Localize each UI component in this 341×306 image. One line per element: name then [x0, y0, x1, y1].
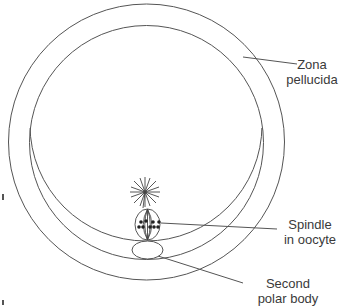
oocyte-diagram [0, 0, 341, 306]
zona-pellucida-inner [30, 26, 264, 260]
label-spindle-in-oocyte: Spindle in oocyte [280, 217, 340, 247]
spindle-icon [135, 209, 160, 240]
polar-body-leader-line [158, 256, 243, 283]
aster-icon [130, 177, 160, 208]
scan-edge-mark [2, 300, 4, 305]
label-zona-pellucida: Zona pellucida [284, 57, 340, 87]
chromosomes [137, 219, 161, 229]
oocyte-membrane [30, 9, 262, 241]
spindle-leader-line [161, 223, 277, 229]
label-second-polar-body: Second polar body [248, 276, 328, 306]
scan-edge-mark [2, 194, 4, 200]
